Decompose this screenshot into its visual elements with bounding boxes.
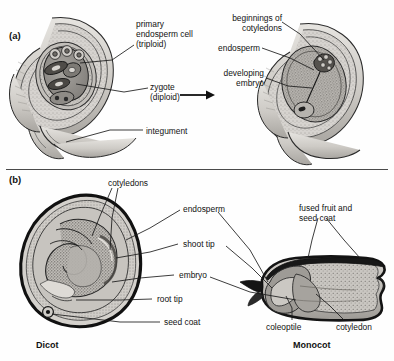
label-root-tip: root tip — [157, 294, 183, 304]
caption-dicot: Dicot — [36, 340, 59, 350]
monocot-grain-drawing — [240, 257, 385, 321]
label-integument: integument — [146, 126, 187, 136]
label-developing-embryo: developing embryo — [190, 68, 264, 88]
figure-illustrations — [0, 0, 394, 361]
label-endosperm-early: endosperm — [198, 43, 260, 53]
label-shoot-tip: shoot tip — [183, 239, 215, 249]
label-embryo: embryo — [179, 270, 207, 280]
panel-letter-a: (a) — [9, 30, 21, 41]
dicot-seed-drawing — [21, 195, 141, 327]
figure-root: (a) (b) primary endosperm cell (triploid… — [0, 0, 394, 361]
label-beginnings-of-cotyledons: beginnings of cotyledons — [196, 13, 282, 33]
panel-divider — [6, 169, 388, 170]
label-primary-endosperm-cell: primary endosperm cell (triploid) — [136, 19, 193, 50]
label-coleoptile: coleoptile — [266, 322, 301, 332]
transition-arrow — [180, 91, 215, 100]
label-zygote: zygote (diploid) — [150, 82, 180, 102]
label-endosperm-seed: endosperm — [183, 204, 225, 214]
panel-letter-b: (b) — [9, 174, 21, 185]
caption-monocot: Monocot — [293, 340, 331, 350]
label-fused-fruit-and-seed-coat: fused fruit and seed coat — [299, 203, 352, 223]
label-seed-coat: seed coat — [164, 317, 200, 327]
label-cotyledons: cotyledons — [108, 178, 148, 188]
ovule-early-drawing — [10, 17, 137, 158]
label-cotyledon: cotyledon — [336, 322, 372, 332]
